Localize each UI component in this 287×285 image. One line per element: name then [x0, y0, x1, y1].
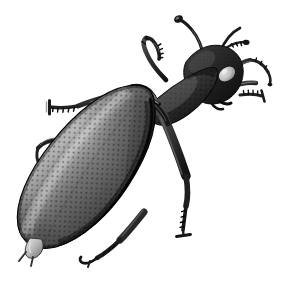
mid-leg-right-claw [268, 83, 273, 87]
beetle-illustration [0, 0, 287, 285]
illustration-canvas: Black-and-white illustration of a beetle… [0, 0, 287, 285]
